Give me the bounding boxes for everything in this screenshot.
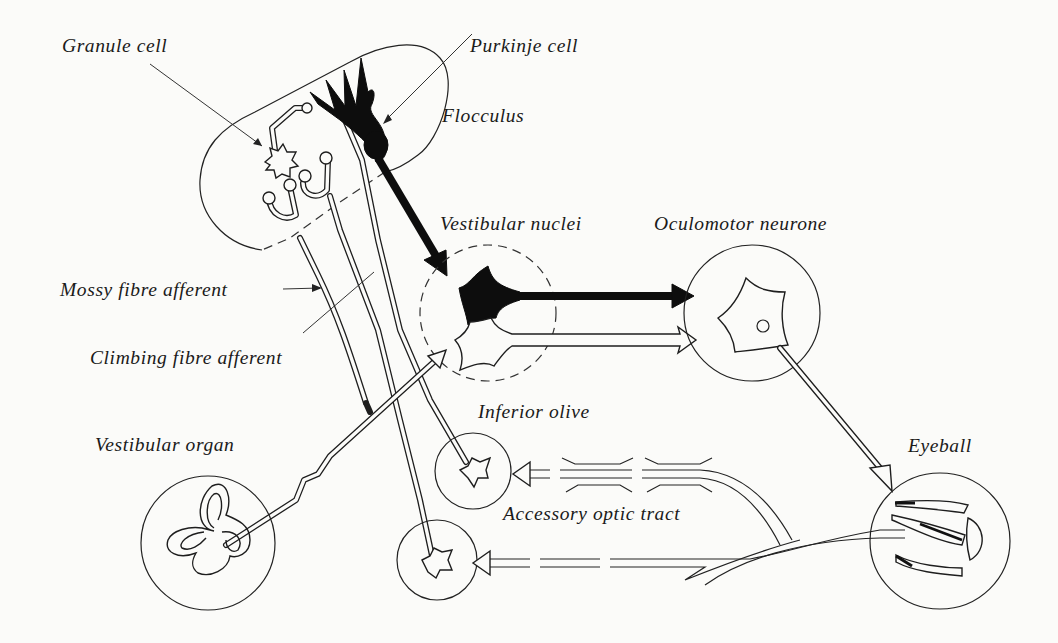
granule-cell-body: [265, 144, 298, 178]
label-mossy-fibre-afferent: Mossy fibre afferent: [59, 279, 228, 300]
vor-circuit-diagram: Granule cell Purkinje cell Flocculus Ves…: [0, 0, 1058, 643]
eyeball-boundary: [870, 473, 1010, 609]
aot-arrowhead-upper: [513, 462, 530, 486]
label-inferior-olive: Inferior olive: [477, 401, 590, 422]
vestibular-organ-boundary: [141, 476, 275, 610]
mossy-rosette-3: [299, 170, 311, 182]
oculomotor-cell-body: [718, 278, 788, 352]
vestibular-organ-node: [141, 476, 275, 610]
parallel-fibre-terminal: [302, 103, 312, 113]
label-accessory-optic-tract: Accessory optic tract: [501, 503, 680, 524]
cornea: [967, 518, 983, 560]
eyeball-node: [870, 473, 1010, 609]
relay-nucleus-node: [397, 520, 477, 600]
mossy-rosette-4: [320, 152, 332, 164]
vestibular-nuclei-node: [420, 245, 696, 381]
label-oculomotor-neurone: Oculomotor neurone: [654, 213, 827, 234]
label-purkinje-cell: Purkinje cell: [469, 35, 578, 56]
granule-pointer: [150, 64, 262, 146]
vestibular-black-neuron: [459, 266, 520, 325]
mossy-rosette-2: [284, 179, 296, 191]
label-flocculus: Flocculus: [441, 105, 524, 126]
inferior-olive-node: [435, 433, 511, 509]
label-vestibular-organ: Vestibular organ: [95, 434, 234, 455]
black-projection-arrowhead: [672, 284, 694, 308]
semicircular-canals-outer: [167, 484, 250, 574]
oculomotor-neurone-node: [684, 245, 892, 491]
vestibular-afferent: [226, 350, 446, 545]
label-climbing-fibre-afferent: Climbing fibre afferent: [90, 347, 282, 368]
mossy-fibre-vestibular: [300, 238, 366, 403]
fibre-bundle: [263, 103, 466, 565]
label-vestibular-nuclei: Vestibular nuclei: [440, 213, 582, 234]
oculomotor-arrowhead: [870, 465, 892, 491]
vestibular-white-neuron: [455, 318, 696, 370]
label-granule-cell: Granule cell: [62, 35, 167, 56]
mossy-rosette-1: [263, 192, 275, 204]
relay-nucleus-cell: [422, 548, 452, 578]
muscle-inferior: [896, 555, 962, 576]
label-eyeball: Eyeball: [907, 435, 972, 456]
